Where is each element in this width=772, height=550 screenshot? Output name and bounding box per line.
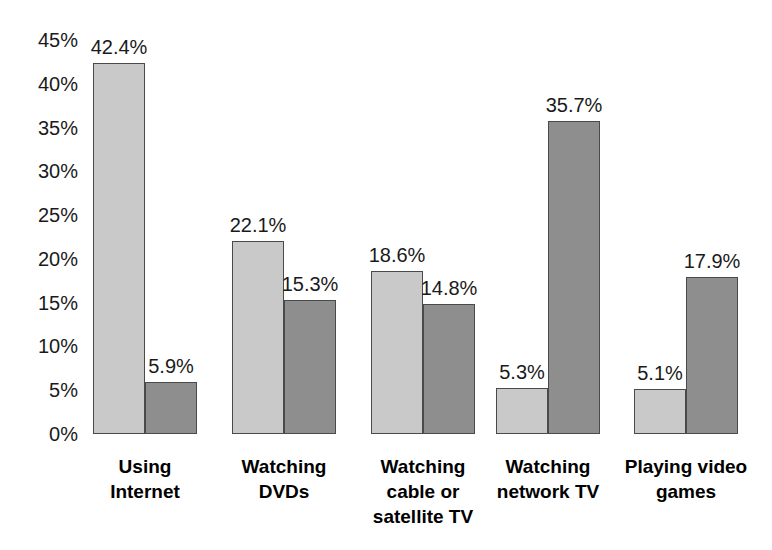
- bar-group: 5.1%17.9%: [634, 48, 738, 434]
- bar-group: 42.4%5.9%: [93, 48, 197, 434]
- bar[interactable]: [232, 241, 284, 434]
- bar-column: 42.4%: [93, 48, 145, 434]
- bar-column: 14.8%: [423, 48, 475, 434]
- bar-value-label: 14.8%: [421, 278, 478, 298]
- bar-value-label: 5.3%: [499, 362, 545, 382]
- bar[interactable]: [634, 389, 686, 434]
- y-axis-tick-label: 25%: [38, 204, 78, 227]
- y-axis-tick-label: 40%: [38, 72, 78, 95]
- x-axis-category-label: Watching DVDs: [210, 454, 358, 504]
- y-axis-tick-label: 0%: [49, 423, 78, 446]
- y-axis-tick-label: 35%: [38, 116, 78, 139]
- y-axis-tick-label: 20%: [38, 247, 78, 270]
- bar-group: 22.1%15.3%: [232, 48, 336, 434]
- plot-area: 42.4%5.9%Using Internet22.1%15.3%Watchin…: [86, 0, 772, 550]
- x-axis-category-label: Playing video games: [612, 454, 760, 504]
- bar-group: 5.3%35.7%: [496, 48, 600, 434]
- y-axis-tick-label: 15%: [38, 291, 78, 314]
- y-axis-tick-label: 5%: [49, 379, 78, 402]
- bar-value-label: 18.6%: [369, 245, 426, 265]
- y-axis-tick-label: 10%: [38, 335, 78, 358]
- x-axis-category-label: Using Internet: [71, 454, 219, 504]
- bar-column: 5.3%: [496, 48, 548, 434]
- bar[interactable]: [145, 382, 197, 434]
- bar[interactable]: [371, 271, 423, 434]
- bar-column: 17.9%: [686, 48, 738, 434]
- bar[interactable]: [423, 304, 475, 434]
- bar-value-label: 35.7%: [546, 95, 603, 115]
- bar[interactable]: [284, 300, 336, 434]
- bar[interactable]: [93, 63, 145, 434]
- y-axis-tick-label: 30%: [38, 160, 78, 183]
- bar-value-label: 5.9%: [148, 356, 194, 376]
- bar-column: 5.1%: [634, 48, 686, 434]
- bar[interactable]: [548, 121, 600, 434]
- bar[interactable]: [496, 388, 548, 434]
- bar-column: 35.7%: [548, 48, 600, 434]
- bar-value-label: 22.1%: [230, 215, 287, 235]
- bar-chart: 0%5%10%15%20%25%30%35%40%45% 42.4%5.9%Us…: [0, 0, 772, 550]
- bar-value-label: 17.9%: [684, 251, 741, 271]
- y-axis-tick-label: 45%: [38, 29, 78, 52]
- bar-column: 22.1%: [232, 48, 284, 434]
- bar-value-label: 5.1%: [637, 363, 683, 383]
- bar-value-label: 42.4%: [91, 37, 148, 57]
- bar[interactable]: [686, 277, 738, 434]
- bar-group: 18.6%14.8%: [371, 48, 475, 434]
- x-axis-category-label: Watching network TV: [474, 454, 622, 504]
- bar-column: 5.9%: [145, 48, 197, 434]
- bar-value-label: 15.3%: [282, 274, 339, 294]
- bar-column: 18.6%: [371, 48, 423, 434]
- bar-column: 15.3%: [284, 48, 336, 434]
